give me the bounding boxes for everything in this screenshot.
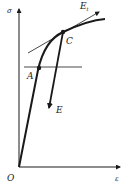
tangent-modulus-subscript: t [87, 6, 90, 12]
unloading-line [49, 32, 63, 108]
point-a [37, 66, 41, 70]
y-axis-label: σ [7, 7, 12, 15]
point-c [61, 30, 65, 34]
point-c-label: C [66, 36, 73, 46]
point-a-label: A [26, 71, 34, 81]
x-axis-label: ε [115, 175, 119, 183]
origin-label: O [7, 173, 15, 183]
stress-strain-diagram: σ ε O A C E Et [0, 0, 127, 185]
unloading-modulus-label: E [55, 105, 63, 115]
tangent-modulus-label: Et [79, 1, 90, 12]
